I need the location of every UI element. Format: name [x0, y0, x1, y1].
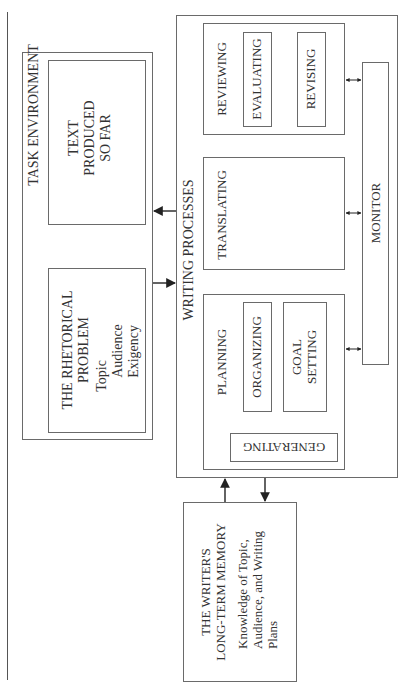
rhetorical-item-topic: Topic — [94, 324, 110, 392]
text-produced-line3: SO FAR — [98, 100, 114, 175]
ltm-desc-line3: Plans — [265, 531, 280, 649]
rhetorical-problem-line1: THE RHETORICAL — [60, 290, 76, 409]
text-produced-label: TEXT PRODUCED SO FAR — [66, 100, 114, 175]
organizing-label: ORGANIZING — [250, 316, 265, 398]
generating-label: GENERATING — [243, 440, 325, 455]
goal-setting-label: GOAL SETTING — [290, 330, 320, 384]
evaluating-label: EVALUATING — [250, 38, 265, 119]
planning-label: PLANNING — [215, 329, 230, 395]
goal-setting-line1: GOAL — [290, 330, 305, 384]
rhetorical-item-audience: Audience — [110, 324, 126, 392]
rhetorical-problem-items: Topic Audience Exigency — [94, 324, 142, 392]
long-term-memory-description: Knowledge of Topic, Audience, and Writin… — [236, 531, 281, 649]
revising-label: REVISING — [304, 49, 319, 110]
ltm-title-line2: LONG-TERM MEMORY — [214, 523, 229, 661]
task-environment-label: TASK ENVIRONMENT — [26, 44, 42, 186]
text-produced-line2: PRODUCED — [82, 100, 98, 175]
margin-rule — [7, 12, 8, 680]
ltm-desc-line2: Audience, and Writing — [251, 531, 266, 649]
translating-label: TRANSLATING — [215, 170, 230, 260]
rhetorical-problem-line2: PROBLEM — [76, 290, 92, 409]
ltm-desc-line1: Knowledge of Topic, — [236, 531, 251, 649]
writing-processes-label: WRITING PROCESSES — [181, 179, 197, 320]
monitor-label: MONITOR — [369, 183, 384, 243]
rhetorical-problem-title: THE RHETORICAL PROBLEM — [60, 290, 92, 409]
goal-setting-line2: SETTING — [305, 330, 320, 384]
text-produced-line1: TEXT — [66, 100, 82, 175]
long-term-memory-title: THE WRITER'S LONG-TERM MEMORY — [199, 523, 229, 661]
reviewing-label: REVIEWING — [215, 42, 230, 116]
ltm-title-line1: THE WRITER'S — [199, 523, 214, 661]
rhetorical-item-exigency: Exigency — [126, 324, 142, 392]
